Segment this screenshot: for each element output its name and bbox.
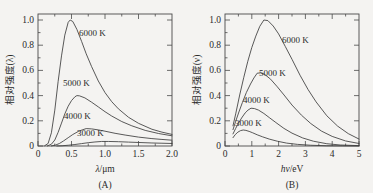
y-tick-label-b-5: 1.0 <box>209 15 221 25</box>
y-tick-label-a-0: 0 <box>29 141 34 151</box>
y-axis-title-a: 相对强度(λ) <box>4 55 16 106</box>
x-tick-label-a-0: 0 <box>36 149 41 159</box>
x-axis-ticks-top-b <box>238 14 345 19</box>
curve-label-a-5000k: 5000 K <box>63 78 90 88</box>
blackbody-radiation-figure: 0 0.5 1.0 1.5 2.0 0 0.2 0.4 0.6 0.8 1.0 … <box>0 0 373 193</box>
y-tick-label-a-2: 0.4 <box>22 91 34 101</box>
curve-label-b-4000k: 4000 K <box>243 95 270 105</box>
x-axis-ticks-top-a <box>55 14 156 19</box>
y-axis-ticks-right-b <box>354 20 359 121</box>
x-tick-label-a-3: 1.5 <box>133 149 145 159</box>
y-tick-label-a-1: 0.2 <box>22 116 34 126</box>
curve-label-b-6000k: 6000 K <box>282 35 309 45</box>
panel-caption-b: (B) <box>286 180 299 191</box>
y-tick-label-b-1: 0.2 <box>209 116 221 126</box>
y-tick-label-a-3: 0.6 <box>22 65 34 75</box>
y-tick-label-b-4: 0.8 <box>209 40 221 50</box>
x-tick-label-a-4: 2.0 <box>166 149 178 159</box>
y-tick-label-a-5: 1.0 <box>22 15 34 25</box>
y-tick-label-b-0: 0 <box>216 141 221 151</box>
y-axis-ticks-b <box>225 20 230 146</box>
curve-label-b-5000k: 5000 K <box>259 68 286 78</box>
y-axis-ticks-right-a <box>167 20 172 121</box>
y-axis-title-b: 相对强度(ν) <box>191 55 203 106</box>
x-tick-label-a-2: 1.0 <box>99 149 111 159</box>
x-tick-label-b-5: 5 <box>357 149 362 159</box>
y-axis-ticks-a <box>38 20 43 146</box>
panel-a: 0 0.5 1.0 1.5 2.0 0 0.2 0.4 0.6 0.8 1.0 … <box>0 0 186 193</box>
x-axis-title-b-unit: /eV <box>290 164 304 174</box>
x-tick-label-b-4: 4 <box>330 149 335 159</box>
x-axis-title-a-unit: /μm <box>100 164 116 174</box>
x-tick-label-b-0: 0 <box>223 149 228 159</box>
x-tick-label-a-1: 0.5 <box>66 149 78 159</box>
panel-caption-a: (A) <box>98 180 111 191</box>
x-axis-title-b: hν/eV <box>281 164 304 174</box>
curve-a-3000k <box>57 141 172 145</box>
curve-label-a-3000k: 3000 K <box>77 128 104 138</box>
y-tick-label-a-4: 0.8 <box>22 40 34 50</box>
curve-label-a-4000k: 4000 K <box>64 111 91 121</box>
curve-label-b-3000k: 3000 K <box>235 118 262 128</box>
x-axis-title-a: λ/μm <box>94 164 115 174</box>
panel-b: 0 1 2 3 4 5 0 0.2 0.4 0.6 0.8 1.0 6000 K… <box>187 0 373 193</box>
x-tick-label-b-3: 3 <box>303 149 308 159</box>
curve-label-a-6000k: 6000 K <box>79 28 106 38</box>
x-tick-label-b-2: 2 <box>276 149 281 159</box>
x-tick-label-b-1: 1 <box>249 149 254 159</box>
y-tick-label-b-3: 0.6 <box>209 65 221 75</box>
y-tick-label-b-2: 0.4 <box>209 91 221 101</box>
